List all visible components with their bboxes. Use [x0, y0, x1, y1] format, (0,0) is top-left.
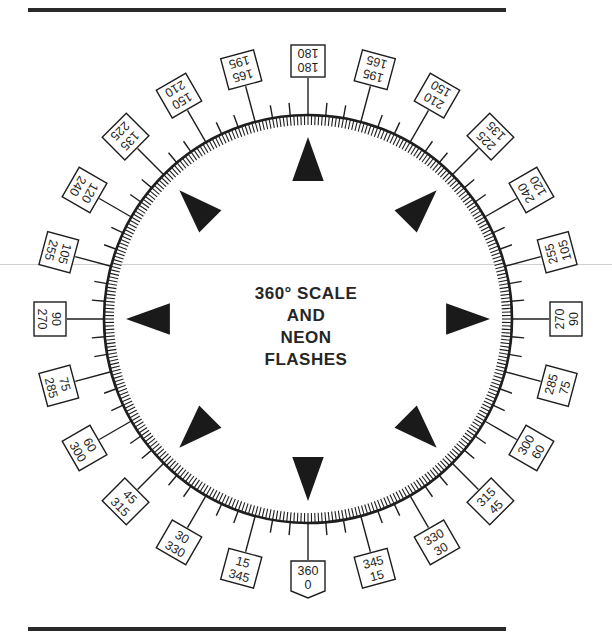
- degree-label-210: 150210: [156, 73, 201, 118]
- label-outer-value: 360: [298, 564, 319, 578]
- title-line-3: NEON: [206, 327, 406, 349]
- flash-marker-icon: [395, 406, 437, 448]
- degree-label-285: 75285: [39, 365, 79, 406]
- degree-label-330: 30330: [156, 520, 201, 565]
- degree-label-165: 195165: [354, 50, 395, 90]
- degree-label-240: 120240: [62, 167, 107, 212]
- degree-label-60: 30060: [509, 425, 554, 470]
- flash-marker-icon: [126, 303, 170, 334]
- label-inner-value: 0: [305, 578, 312, 592]
- flash-marker-icon: [446, 303, 490, 334]
- degree-label-75: 28575: [537, 365, 577, 406]
- label-inner-value: 270: [35, 309, 49, 330]
- degree-label-180: 180180: [291, 45, 325, 77]
- flash-marker-icon: [292, 137, 323, 181]
- degree-label-105: 255105: [537, 232, 577, 273]
- degree-label-195: 165195: [221, 50, 262, 90]
- degree-label-255: 105255: [39, 232, 79, 273]
- flash-marker-icon: [395, 190, 437, 232]
- label-outer-value: 90: [49, 312, 63, 326]
- flash-marker-icon: [179, 190, 221, 232]
- title-line-1: 360° SCALE: [206, 283, 406, 305]
- degree-label-300: 60300: [62, 425, 107, 470]
- flash-marker-icon: [179, 406, 221, 448]
- degree-label-30: 33030: [414, 520, 459, 565]
- label-outer-value: 270: [553, 309, 567, 330]
- bottom-rule: [28, 627, 506, 631]
- degree-label-120: 240120: [509, 167, 554, 212]
- title-line-2: AND: [206, 305, 406, 327]
- degree-label-0: 3600: [291, 561, 325, 598]
- degree-label-345: 15345: [221, 548, 262, 588]
- label-inner-value: 90: [567, 312, 581, 326]
- degree-label-270: 90270: [34, 302, 66, 336]
- flash-marker-icon: [292, 457, 323, 501]
- label-outer-value: 180: [298, 60, 319, 74]
- title-line-4: FLASHES: [206, 349, 406, 371]
- diagram-title: 360° SCALE AND NEON FLASHES: [206, 283, 406, 371]
- degree-label-15: 34515: [354, 548, 395, 588]
- degree-label-150: 210150: [414, 73, 459, 118]
- label-inner-value: 180: [298, 46, 319, 60]
- degree-label-90: 27090: [550, 302, 582, 336]
